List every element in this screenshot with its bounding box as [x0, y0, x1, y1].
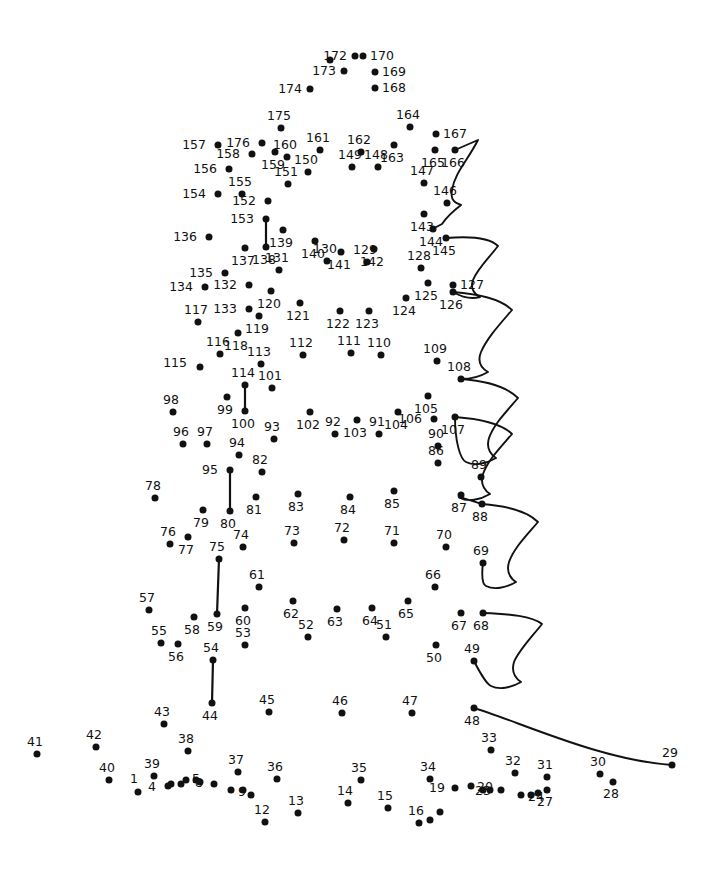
dot-152[interactable]	[265, 198, 272, 205]
dot-158[interactable]	[249, 151, 256, 158]
dot-125[interactable]	[425, 280, 432, 287]
dot-90[interactable]	[435, 443, 442, 450]
dot-46[interactable]	[339, 710, 346, 717]
dot-16[interactable]	[416, 820, 423, 827]
dot-120[interactable]	[268, 288, 275, 295]
dot-54[interactable]	[210, 657, 217, 664]
dot-19[interactable]	[452, 785, 459, 792]
dot-35[interactable]	[358, 777, 365, 784]
dot-50[interactable]	[433, 642, 440, 649]
dot-160[interactable]	[284, 154, 291, 161]
dot-97[interactable]	[204, 441, 211, 448]
dot-103[interactable]	[354, 417, 361, 424]
dot-168[interactable]	[372, 85, 379, 92]
dot-55[interactable]	[158, 640, 165, 647]
dot-59[interactable]	[214, 611, 221, 618]
dot-137[interactable]	[242, 245, 249, 252]
dot-87[interactable]	[458, 492, 465, 499]
dot-53[interactable]	[242, 642, 249, 649]
dot-112[interactable]	[300, 352, 307, 359]
dot-40[interactable]	[106, 777, 113, 784]
dot-63[interactable]	[334, 606, 341, 613]
dot-44[interactable]	[209, 700, 216, 707]
dot-106[interactable]	[431, 416, 438, 423]
dot-80[interactable]	[227, 508, 234, 515]
dot-175[interactable]	[278, 125, 285, 132]
dot-82[interactable]	[259, 469, 266, 476]
dot-150[interactable]	[305, 169, 312, 176]
dot-85[interactable]	[391, 488, 398, 495]
dot-155[interactable]	[239, 191, 246, 198]
dot-81[interactable]	[253, 494, 260, 501]
dot-37[interactable]	[235, 769, 242, 776]
dot-45[interactable]	[266, 709, 273, 716]
dot-136[interactable]	[206, 234, 213, 241]
dot-135[interactable]	[222, 270, 229, 277]
dot-9[interactable]	[228, 787, 235, 794]
dot-62[interactable]	[290, 598, 297, 605]
dot-167[interactable]	[433, 131, 440, 138]
dot-15[interactable]	[385, 805, 392, 812]
dot-114[interactable]	[242, 382, 249, 389]
dot-41[interactable]	[34, 751, 41, 758]
dot-100[interactable]	[242, 408, 249, 415]
dot-146[interactable]	[444, 200, 451, 207]
dot-123[interactable]	[366, 308, 373, 315]
dot-60[interactable]	[242, 605, 249, 612]
dot-8[interactable]	[211, 781, 218, 788]
dot-83[interactable]	[295, 491, 302, 498]
dot-115[interactable]	[197, 364, 204, 371]
dot-165[interactable]	[432, 147, 439, 154]
dot-144[interactable]	[430, 226, 437, 233]
dot-163[interactable]	[391, 142, 398, 149]
dot-17[interactable]	[427, 817, 434, 824]
dot-92[interactable]	[332, 431, 339, 438]
dot-84[interactable]	[347, 494, 354, 501]
dot-89[interactable]	[478, 474, 485, 481]
dot-101[interactable]	[269, 385, 276, 392]
dot-145[interactable]	[443, 235, 450, 242]
dot-24[interactable]	[518, 792, 525, 799]
dot-31[interactable]	[544, 774, 551, 781]
dot-107[interactable]	[452, 414, 459, 421]
dot-4[interactable]	[165, 783, 172, 790]
dot-153[interactable]	[263, 216, 270, 223]
dot-36[interactable]	[274, 776, 281, 783]
dot-48[interactable]	[471, 705, 478, 712]
dot-52[interactable]	[305, 634, 312, 641]
dot-75[interactable]	[216, 556, 223, 563]
dot-173[interactable]	[341, 68, 348, 75]
dot-34[interactable]	[427, 776, 434, 783]
dot-174[interactable]	[307, 86, 314, 93]
dot-49[interactable]	[471, 658, 478, 665]
dot-51[interactable]	[383, 634, 390, 641]
dot-23[interactable]	[498, 787, 505, 794]
dot-1[interactable]	[135, 789, 142, 796]
dot-18[interactable]	[437, 809, 444, 816]
dot-119[interactable]	[256, 313, 263, 320]
dot-32[interactable]	[512, 770, 519, 777]
dot-58[interactable]	[191, 614, 198, 621]
dot-122[interactable]	[337, 308, 344, 315]
dot-42[interactable]	[93, 744, 100, 751]
dot-66[interactable]	[432, 584, 439, 591]
dot-132[interactable]	[246, 282, 253, 289]
dot-38[interactable]	[185, 748, 192, 755]
dot-25[interactable]	[528, 792, 535, 799]
dot-91[interactable]	[376, 431, 383, 438]
dot-57[interactable]	[146, 607, 153, 614]
dot-94[interactable]	[236, 452, 243, 459]
dot-28[interactable]	[610, 779, 617, 786]
dot-105[interactable]	[425, 393, 432, 400]
dot-166[interactable]	[452, 147, 459, 154]
dot-99[interactable]	[224, 394, 231, 401]
dot-110[interactable]	[378, 352, 385, 359]
dot-147[interactable]	[421, 180, 428, 187]
dot-56[interactable]	[175, 641, 182, 648]
dot-71[interactable]	[391, 540, 398, 547]
dot-140[interactable]	[312, 238, 319, 245]
dot-124[interactable]	[403, 295, 410, 302]
dot-73[interactable]	[291, 540, 298, 547]
dot-88[interactable]	[479, 501, 486, 508]
dot-121[interactable]	[297, 300, 304, 307]
